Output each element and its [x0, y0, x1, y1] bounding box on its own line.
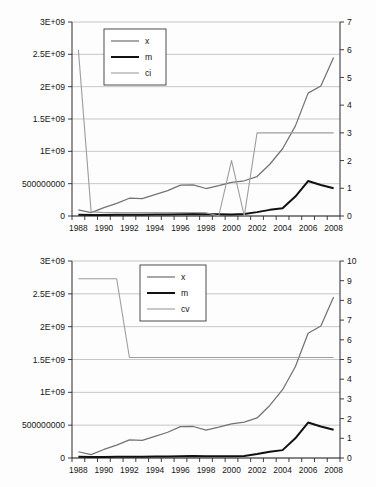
x-axis-tick-label: 1996: [171, 465, 190, 475]
right-axis-tick-label: 8: [347, 296, 352, 306]
left-axis-tick-label: 2E+09: [40, 82, 65, 92]
x-axis-tick-label: 1990: [95, 465, 114, 475]
x-axis-tick-label: 2008: [324, 465, 343, 475]
right-axis-tick-label: 4: [347, 100, 352, 110]
left-axis-tick-label: 2E+09: [40, 322, 65, 332]
left-axis-tick-label: 500000000: [22, 420, 65, 430]
right-axis-tick-label: 0: [347, 211, 352, 221]
left-axis-tick-label: 3E+09: [40, 17, 65, 27]
x-axis-tick-label: 1996: [171, 223, 190, 233]
x-axis-tick-label: 1998: [197, 223, 216, 233]
chart-bottom-svg: 05000000001E+091.5E+092E+092.5E+093E+090…: [0, 245, 376, 487]
right-axis-tick-label: 3: [347, 128, 352, 138]
right-axis-tick-label: 9: [347, 276, 352, 286]
x-axis-tick-label: 2004: [273, 465, 292, 475]
right-axis-tick-label: 2: [347, 156, 352, 166]
x-axis-tick-label: 2002: [248, 465, 267, 475]
x-axis-tick-label: 2004: [273, 223, 292, 233]
right-axis-tick-label: 6: [347, 335, 352, 345]
right-axis-tick-label: 1: [347, 433, 352, 443]
legend-label-x: x: [181, 272, 186, 282]
legend-label-ci: ci: [145, 68, 151, 78]
x-axis-tick-label: 1998: [197, 465, 216, 475]
x-axis-tick-label: 2000: [222, 223, 241, 233]
right-axis-tick-label: 6: [347, 45, 352, 55]
series-line-m: [78, 181, 333, 215]
series-line-m: [78, 423, 333, 457]
right-axis-tick-label: 1: [347, 183, 352, 193]
right-axis-tick-label: 5: [347, 355, 352, 365]
chart-top-svg: 05000000001E+091.5E+092E+092.5E+093E+090…: [0, 0, 376, 245]
left-axis-tick-label: 0: [60, 211, 65, 221]
x-axis-tick-label: 1994: [146, 223, 165, 233]
left-axis-tick-label: 1.5E+09: [33, 114, 65, 124]
left-axis-tick-label: 500000000: [22, 179, 65, 189]
right-axis-tick-label: 5: [347, 73, 352, 83]
x-axis-tick-label: 2002: [248, 223, 267, 233]
x-axis-tick-label: 1994: [146, 465, 165, 475]
legend-label-cv: cv: [181, 304, 190, 314]
x-axis-tick-label: 2006: [299, 465, 318, 475]
x-axis-tick-label: 1992: [120, 465, 139, 475]
x-axis-tick-label: 1990: [95, 223, 114, 233]
x-axis-tick-label: 2006: [299, 223, 318, 233]
legend-label-x: x: [145, 36, 150, 46]
left-axis-tick-label: 1E+09: [40, 146, 65, 156]
chart-top: 05000000001E+091.5E+092E+092.5E+093E+090…: [0, 0, 376, 245]
left-axis-tick-label: 3E+09: [40, 256, 65, 266]
right-axis-tick-label: 7: [347, 315, 352, 325]
left-axis-tick-label: 1E+09: [40, 387, 65, 397]
right-axis-tick-label: 2: [347, 414, 352, 424]
x-axis-tick-label: 1988: [69, 223, 88, 233]
left-axis-tick-label: 2.5E+09: [33, 289, 65, 299]
left-axis-tick-label: 2.5E+09: [33, 49, 65, 59]
chart-bottom: 05000000001E+091.5E+092E+092.5E+093E+090…: [0, 245, 376, 487]
legend-label-m: m: [181, 288, 188, 298]
x-axis-tick-label: 2008: [324, 223, 343, 233]
right-axis-tick-label: 4: [347, 374, 352, 384]
right-axis-tick-label: 10: [347, 256, 357, 266]
left-axis-tick-label: 0: [60, 453, 65, 463]
x-axis-tick-label: 1992: [120, 223, 139, 233]
x-axis-tick-label: 1988: [69, 465, 88, 475]
right-axis-tick-label: 7: [347, 17, 352, 27]
right-axis-tick-label: 3: [347, 394, 352, 404]
x-axis-tick-label: 2000: [222, 465, 241, 475]
legend-label-m: m: [145, 52, 152, 62]
right-axis-tick-label: 0: [347, 453, 352, 463]
left-axis-tick-label: 1.5E+09: [33, 355, 65, 365]
chart-page: 05000000001E+091.5E+092E+092.5E+093E+090…: [0, 0, 376, 487]
